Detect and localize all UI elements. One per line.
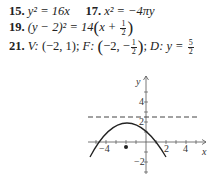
- y-tick-label: 2: [139, 116, 144, 127]
- y-axis-label: y: [135, 76, 141, 87]
- parabola-graph: y x −4 2 4 4 2 −2: [0, 0, 213, 174]
- x-tick-label: −4: [99, 143, 110, 154]
- focus-point: [124, 145, 128, 149]
- y-tick-label: 4: [139, 96, 144, 107]
- x-axis-label: x: [201, 146, 207, 157]
- x-tick-label: 4: [183, 143, 188, 154]
- y-tick-label: −2: [134, 156, 145, 167]
- x-tick-label: 2: [164, 143, 169, 154]
